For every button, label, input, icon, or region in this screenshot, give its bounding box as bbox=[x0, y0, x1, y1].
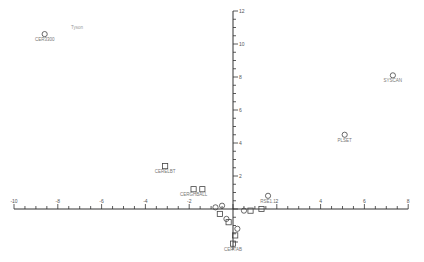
x-tick-label: 2 bbox=[275, 198, 278, 204]
annotation-text: Tyson bbox=[71, 25, 84, 30]
y-tick-label: 8 bbox=[239, 74, 242, 80]
x-tick-label: 8 bbox=[407, 198, 410, 204]
chart-svg: -10-8-6-4-2246824681012 CER3300SYSCANPLS… bbox=[0, 0, 424, 262]
x-tick-label: 6 bbox=[363, 198, 366, 204]
point-square bbox=[200, 187, 205, 192]
point-circle bbox=[265, 193, 270, 198]
point-circle bbox=[235, 226, 240, 231]
annotations: Tyson bbox=[71, 25, 84, 30]
point-label: CERGHBALL bbox=[180, 192, 208, 197]
data-points: CER3300SYSCANPLSETRSE1.1CERELBTCERGHBALL… bbox=[35, 31, 402, 251]
y-tick-label: 2 bbox=[239, 173, 242, 179]
scatter-chart: -10-8-6-4-2246824681012 CER3300SYSCANPLS… bbox=[0, 0, 424, 262]
point-label: RSE1.1 bbox=[260, 199, 276, 204]
point-label: CERTAB bbox=[224, 247, 242, 252]
point-square bbox=[217, 211, 222, 216]
y-tick-label: 12 bbox=[239, 8, 245, 14]
point-label: CER3300 bbox=[35, 37, 55, 42]
point-square bbox=[191, 187, 196, 192]
x-tick-label: 4 bbox=[319, 198, 322, 204]
point-label: PLSET bbox=[338, 138, 353, 143]
y-tick-label: 6 bbox=[239, 107, 242, 113]
point-circle bbox=[42, 31, 47, 36]
y-tick-label: 4 bbox=[239, 140, 242, 146]
point-circle bbox=[224, 216, 229, 221]
x-tick-label: -8 bbox=[56, 198, 61, 204]
point-circle bbox=[390, 73, 395, 78]
point-circle bbox=[342, 132, 347, 137]
point-square bbox=[163, 164, 168, 169]
x-tick-label: -6 bbox=[99, 198, 104, 204]
x-tick-label: -4 bbox=[143, 198, 148, 204]
point-label: CERELBT bbox=[155, 169, 176, 174]
point-label: SYSCAN bbox=[384, 78, 403, 83]
y-tick-label: 10 bbox=[239, 41, 245, 47]
x-tick-label: -10 bbox=[10, 198, 17, 204]
axes: -10-8-6-4-2246824681012 bbox=[10, 8, 409, 250]
x-tick-label: -2 bbox=[187, 198, 192, 204]
